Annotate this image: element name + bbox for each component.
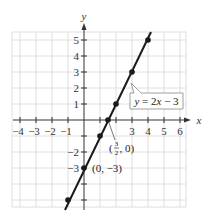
y-tick-label: 2	[74, 82, 80, 94]
x-intercept-rest: , 0)	[120, 142, 135, 155]
x-tick-label: −1	[60, 125, 72, 137]
x-tick-label: −2	[44, 125, 56, 137]
point-0-neg3	[81, 165, 87, 171]
x-axis-label: x	[196, 114, 202, 126]
point-neg1-neg5	[65, 197, 71, 203]
x-axis-arrow-icon	[184, 118, 191, 123]
y-axis-arrow-icon	[82, 23, 87, 30]
x-tick-label: −4	[12, 125, 24, 137]
point-1-neg1	[97, 133, 103, 139]
x-intercept-numerator: 3	[115, 140, 119, 148]
point-1.5-0	[105, 117, 111, 123]
x-intercept-open: (	[109, 142, 113, 155]
equation-label: y = 2x − 3	[133, 95, 179, 107]
y-tick-label: 1	[74, 98, 80, 110]
x-tick-label: 5	[161, 125, 167, 137]
x-tick-label: 6	[177, 125, 183, 137]
point-4-5	[145, 37, 151, 43]
x-intercept-denominator: 2	[115, 149, 119, 157]
y-axis-label: y	[81, 10, 87, 22]
equation-callout: y = 2x − 3	[130, 83, 183, 109]
y-tick-label: −3	[67, 162, 79, 174]
graph: −4 −3 −2 −1 3 4 5 6 5 4 3 2 1 −2 −3 y x …	[0, 0, 212, 218]
point-3-3	[129, 69, 135, 75]
y-tick-label: 3	[74, 66, 80, 78]
x-tick-label: 3	[129, 125, 135, 137]
y-intercept-label: (0, −3)	[92, 162, 122, 175]
y-tick-label: 5	[74, 34, 80, 46]
x-tick-label: 4	[145, 125, 151, 137]
point-2-1	[113, 101, 119, 107]
y-tick-label: 4	[74, 50, 80, 62]
x-tick-label: −3	[28, 125, 40, 137]
y-tick-label: −2	[67, 146, 79, 158]
